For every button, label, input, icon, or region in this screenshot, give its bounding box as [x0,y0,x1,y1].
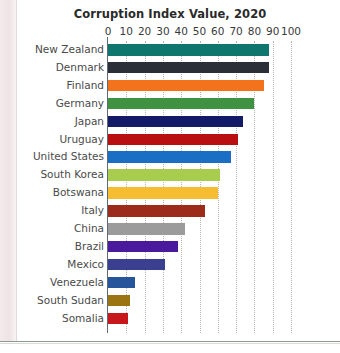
category-label: Germany [56,97,104,110]
bar-row: Uruguay [108,131,291,149]
bar-row: Somalia [108,310,291,328]
bar [108,295,130,307]
bar [108,187,218,199]
bar-row: South Sudan [108,292,291,310]
bar [108,277,135,289]
chart-title: Corruption Index Value, 2020 [0,7,340,21]
x-tick-label: 60 [211,25,224,37]
plot-area: New ZealandDenmarkFinlandGermanyJapanUru… [108,41,291,333]
x-tick-label: 0 [105,25,112,37]
bar-row: Brazil [108,238,291,256]
bar-row: Mexico [108,256,291,274]
page-bottom-rule [0,341,340,342]
category-label: New Zealand [35,43,104,56]
category-label: Botswana [53,186,104,199]
bar [108,44,269,56]
bar-row: Japan [108,113,291,131]
bar [108,116,243,128]
x-tick-label: 20 [138,25,151,37]
bar-rows: New ZealandDenmarkFinlandGermanyJapanUru… [108,41,291,333]
bar-row: Venezuela [108,274,291,292]
page-canvas: Corruption Index Value, 2020 01020304050… [0,0,340,353]
category-label: Somalia [62,312,104,325]
bar [108,169,220,181]
page-bottom-rule-shadow [0,343,340,344]
x-tick-label: 90 [266,25,279,37]
x-tick-label: 50 [193,25,206,37]
bar [108,241,178,253]
category-label: South Sudan [37,294,104,307]
category-label: China [74,222,104,235]
x-axis-tick-labels: 0102030405060708090100 [108,25,291,39]
bar-chart: Corruption Index Value, 2020 01020304050… [0,0,340,341]
x-tick-label: 30 [156,25,169,37]
bar-row: Botswana [108,184,291,202]
category-label: South Korea [40,168,104,181]
x-tick-label: 100 [281,25,301,37]
bar [108,313,128,325]
bar [108,151,231,163]
category-label: Finland [66,79,104,92]
bar [108,223,185,235]
bar [108,80,264,92]
bar-row: United States [108,148,291,166]
bar-row: China [108,220,291,238]
category-label: Denmark [56,61,104,74]
bar-row: Finland [108,77,291,95]
category-label: United States [33,150,104,163]
bar-row: Denmark [108,59,291,77]
x-tick-label: 70 [229,25,242,37]
x-tick-label: 80 [248,25,261,37]
bar-row: Italy [108,202,291,220]
bar [108,259,165,271]
bar [108,134,238,146]
category-label: Italy [81,204,104,217]
category-label: Japan [75,115,104,128]
category-label: Mexico [67,258,104,271]
bar [108,62,269,74]
bar-row: South Korea [108,166,291,184]
category-label: Uruguay [59,133,104,146]
gridline [291,41,292,333]
category-label: Venezuela [50,276,104,289]
bar [108,205,205,217]
x-tick-label: 10 [120,25,133,37]
x-tick-label: 40 [175,25,188,37]
bar-row: New Zealand [108,41,291,59]
bar [108,98,254,110]
bar-row: Germany [108,95,291,113]
category-label: Brazil [75,240,104,253]
